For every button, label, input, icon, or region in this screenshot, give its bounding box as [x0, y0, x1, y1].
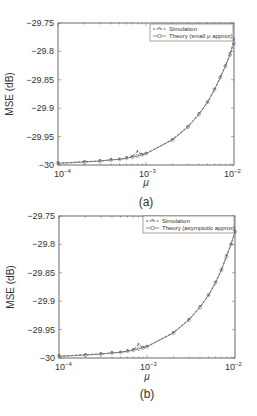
y-ticks-a: −29.75 −29.8 −29.85 −29.9 −29.95 −30 [26, 18, 54, 170]
ytick-label: −29.75 [27, 211, 55, 221]
panel-a: −29.75 −29.8 −29.85 −29.9 −29.95 −30 10−… [4, 18, 242, 209]
ytick-label: −29.95 [26, 132, 54, 142]
xtick-label: 10−4 [54, 168, 72, 179]
y-axis-label-b: MSE (dB) [5, 265, 16, 308]
ytick-label: −29.9 [31, 103, 54, 113]
xtick-label: 10−4 [55, 361, 73, 372]
ytick-label: −29.9 [32, 296, 55, 306]
x-axis-label-b: μ [143, 371, 150, 382]
caption-b: (b) [140, 387, 155, 401]
ytick-label: −29.8 [32, 239, 55, 249]
y-axis-label-a: MSE (dB) [4, 72, 15, 115]
ytick-label: −30 [40, 353, 55, 363]
legend-a: * Simulation Theory (small μ approx) [150, 24, 233, 41]
legend-b: * Simulation Theory (asymptotic approx) [143, 216, 235, 233]
legend-simulation: Simulation [169, 26, 197, 32]
caption-a: (a) [139, 195, 154, 209]
ytick-label: −29.85 [26, 75, 54, 85]
legend-theory: Theory (small μ approx) [169, 33, 232, 39]
ytick-label: −29.95 [27, 325, 55, 335]
legend-theory: Theory (asymptotic approx) [162, 225, 235, 231]
y-ticks-b: −29.75 −29.8 −29.85 −29.9 −29.95 −30 [27, 211, 55, 363]
xtick-label: 10−2 [225, 361, 243, 372]
circle-marker-icon [158, 34, 162, 38]
legend-simulation: Simulation [162, 218, 190, 224]
circle-marker-icon [151, 226, 155, 230]
xtick-label: 10−2 [224, 168, 242, 179]
plot-area-b [59, 216, 235, 358]
figure: −29.75 −29.8 −29.85 −29.9 −29.95 −30 10−… [0, 0, 257, 416]
ytick-label: −29.8 [31, 46, 54, 56]
x-axis-label-a: μ [142, 177, 149, 188]
ytick-label: −29.85 [27, 268, 55, 278]
plot-area-a [58, 23, 234, 165]
ytick-label: −29.75 [26, 18, 54, 28]
ytick-label: −30 [39, 160, 54, 170]
panel-b: −29.75 −29.8 −29.85 −29.9 −29.95 −30 10−… [5, 211, 243, 401]
